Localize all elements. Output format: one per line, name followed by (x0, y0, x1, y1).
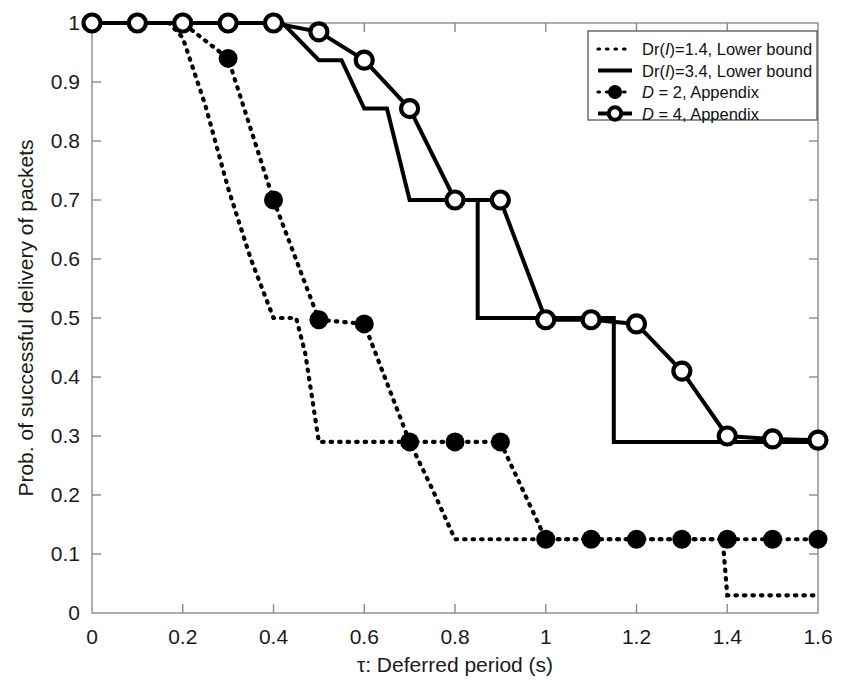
y-tick-label: 0.7 (51, 188, 80, 211)
data-point-marker (537, 311, 554, 328)
data-point-marker (446, 432, 465, 451)
data-point-marker (583, 311, 600, 328)
data-point-marker (764, 430, 781, 447)
data-point-marker (627, 530, 646, 549)
data-point-marker (84, 15, 101, 32)
legend-swatch-open-circle (609, 107, 621, 119)
data-point-marker (309, 310, 328, 329)
x-tick-label: 1.6 (803, 625, 832, 648)
data-point-marker (447, 192, 464, 209)
data-point-marker (809, 530, 828, 549)
data-point-marker (400, 432, 419, 451)
data-point-marker (129, 15, 146, 32)
data-point-marker (491, 432, 510, 451)
data-point-marker (265, 15, 282, 32)
x-tick-label: 0.2 (168, 625, 197, 648)
data-point-marker (401, 100, 418, 117)
chart-legend: Dr(I)=1.4, Lower boundDr(I)=3.4, Lower b… (588, 31, 817, 123)
x-tick-label: 1.4 (713, 625, 743, 648)
y-tick-label: 0.4 (51, 365, 81, 388)
y-tick-label: 0 (68, 601, 80, 624)
data-point-marker (582, 530, 601, 549)
data-point-marker (355, 314, 374, 333)
y-tick-label: 0.9 (51, 70, 80, 93)
x-tick-label: 1 (540, 625, 552, 648)
data-point-marker (810, 432, 827, 449)
probability-line-chart: 00.20.40.60.811.21.41.6 00.10.20.30.40.5… (0, 0, 851, 694)
y-tick-label: 0.5 (51, 306, 80, 329)
legend-label: D = 4, Appendix (642, 105, 760, 123)
legend-swatch-filled-circle (608, 85, 622, 99)
data-point-marker (719, 428, 736, 445)
x-tick-label: 1.2 (622, 625, 651, 648)
y-tick-label: 0.1 (51, 542, 80, 565)
y-tick-label: 0.3 (51, 424, 80, 447)
data-point-marker (673, 363, 690, 380)
y-tick-label: 0.2 (51, 483, 80, 506)
x-axis-title: τ: Deferred period (s) (357, 653, 553, 676)
y-axis-title: Prob. of successful delivery of packets (14, 139, 37, 496)
x-tick-label: 0 (86, 625, 98, 648)
x-tick-label: 0.6 (350, 625, 379, 648)
data-point-marker (763, 530, 782, 549)
y-tick-label: 0.8 (51, 129, 80, 152)
data-point-marker (310, 23, 327, 40)
data-point-marker (536, 530, 555, 549)
data-point-marker (264, 191, 283, 210)
data-point-marker (718, 530, 737, 549)
y-tick-label: 1 (68, 11, 80, 34)
data-point-marker (492, 192, 509, 209)
data-point-marker (219, 49, 238, 68)
data-point-marker (220, 15, 237, 32)
x-tick-label: 0.4 (259, 625, 289, 648)
data-point-marker (174, 15, 191, 32)
data-point-marker (356, 52, 373, 69)
data-point-marker (672, 530, 691, 549)
data-point-marker (628, 315, 645, 332)
chart-page: 00.20.40.60.811.21.41.6 00.10.20.30.40.5… (0, 0, 851, 694)
legend-label: Dr(I)=1.4, Lower bound (642, 40, 812, 58)
legend-label: Dr(I)=3.4, Lower bound (642, 62, 812, 80)
legend-label: D = 2, Appendix (642, 83, 760, 101)
y-tick-label: 0.6 (51, 247, 80, 270)
x-tick-label: 0.8 (440, 625, 469, 648)
